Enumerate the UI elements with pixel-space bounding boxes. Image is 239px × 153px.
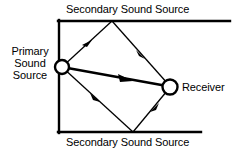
- arrowhead-direct-path: [118, 74, 133, 82]
- arrowhead-upper-reflected: [136, 50, 145, 59]
- direct-path: [62, 67, 167, 86]
- arrowhead-lower-reflected: [150, 103, 159, 112]
- primary-sound-source-label: Primary Sound Source: [3, 45, 57, 81]
- enclosure-walls: [58, 20, 230, 133]
- receiver-marker: [163, 80, 178, 95]
- upper-reflected-path: [112, 21, 168, 84]
- secondary-sound-source-bottom-label: Secondary Sound Source: [66, 136, 189, 148]
- direct-path-ray: [62, 67, 167, 86]
- sound-propagation-diagram: Secondary Sound Source Secondary Sound S…: [0, 0, 239, 153]
- secondary-sound-source-top-label: Secondary Sound Source: [66, 3, 189, 15]
- receiver-label: Receiver: [182, 81, 225, 93]
- upper-reflected-ray: [62, 21, 168, 84]
- lower-reflected-path: [133, 91, 167, 132]
- arrowhead-upper-incident: [82, 40, 92, 47]
- primary-sound-source-label-line2: Sound: [3, 57, 57, 69]
- primary-sound-source-marker: [55, 60, 69, 74]
- primary-sound-source-label-line3: Source: [3, 69, 57, 81]
- primary-sound-source-label-line1: Primary: [3, 45, 57, 57]
